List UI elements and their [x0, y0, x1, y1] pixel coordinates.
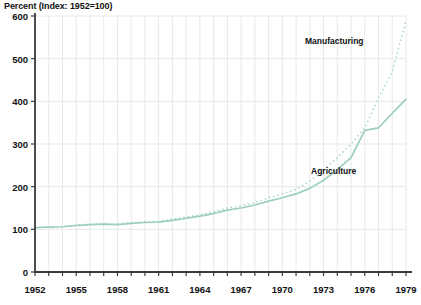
series-line-manufacturing — [35, 20, 406, 227]
x-axis-tick-label: 1970 — [262, 284, 302, 295]
y-axis-tick-label: 500 — [0, 53, 28, 64]
x-axis-tick-label: 1976 — [345, 284, 385, 295]
y-axis-tick-label: 200 — [0, 181, 28, 192]
series-line-agriculture — [35, 99, 406, 227]
x-axis-tick-label: 1958 — [97, 284, 137, 295]
x-axis-tick-label: 1979 — [386, 284, 421, 295]
series-label-agriculture: Agriculture — [311, 166, 356, 176]
x-axis-tick-label: 1967 — [221, 284, 261, 295]
y-axis-tick-label: 400 — [0, 96, 28, 107]
x-axis-tick-label: 1961 — [139, 284, 179, 295]
x-axis-tick-label: 1973 — [304, 284, 344, 295]
x-axis-tick-label: 1955 — [56, 284, 96, 295]
x-axis-tick-label: 1952 — [15, 284, 55, 295]
series-label-manufacturing: Manufacturing — [305, 36, 364, 46]
y-axis-tick-label: 100 — [0, 224, 28, 235]
y-axis-tick-label: 600 — [0, 11, 28, 22]
y-axis-tick-label: 0 — [0, 267, 28, 278]
y-axis-tick-label: 300 — [0, 139, 28, 150]
x-axis-tick-label: 1964 — [180, 284, 220, 295]
